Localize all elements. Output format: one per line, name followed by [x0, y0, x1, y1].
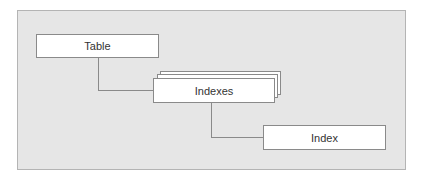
node-table-label: Table [84, 40, 110, 52]
node-indexes: Indexes [153, 78, 275, 103]
connector-indexes-index-horizontal [211, 137, 264, 138]
connector-indexes-index-vertical [211, 102, 212, 138]
node-index-label: Index [311, 132, 338, 144]
node-table: Table [36, 34, 159, 58]
node-indexes-label: Indexes [195, 85, 234, 97]
connector-table-indexes-vertical [98, 57, 99, 91]
node-index: Index [263, 125, 386, 150]
connector-table-indexes-horizontal [98, 90, 154, 91]
